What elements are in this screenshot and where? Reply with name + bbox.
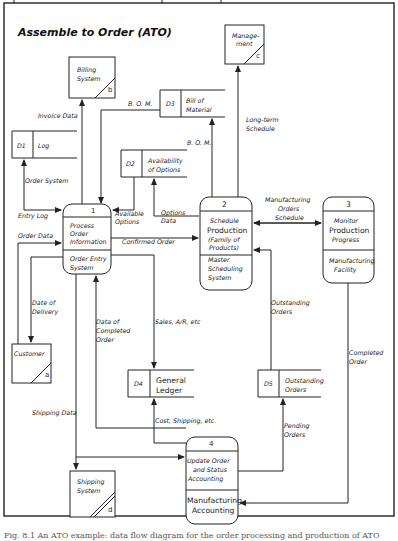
entity-name-line: Shipping [77,478,104,486]
flow-label: Completed [349,349,384,357]
flow-sales-ar: Sales, A/R, etc [111,255,201,368]
external-entity-management: Manage- ment c [225,25,264,64]
data-store-d3-bill-of-material: D3 Bill of Material [160,90,225,117]
process-location-line: Manufacturing [329,257,375,265]
entity-name-line: Billing [77,66,96,74]
flow-label: Shipping Data [32,409,77,417]
process-location-line: Accounting [192,506,235,515]
store-name-line: Outstanding [285,377,324,385]
store-name-line: Ledger [156,386,183,395]
flow-label: Schedule [246,125,275,132]
flow-label: Data of [96,318,121,325]
entity-letter: b [108,86,113,94]
flow-label: Completed [96,327,131,335]
flow-date-of-delivery: Date of Delivery [31,257,63,342]
process-number: 4 [209,440,214,448]
process-4-update-order-and-status-accounting: 4 Update Order and Status Accounting Man… [186,437,242,524]
store-name-line: Availability [147,157,183,165]
process-number: 1 [91,207,95,215]
flow-completed-order: Completed Order [240,283,384,503]
diagram-title: Assemble to Order (ATO) [17,26,172,39]
process-name-line: Schedule [210,217,239,224]
flow-entry-log: Entry Log [18,210,61,220]
entity-name-line: Manage- [232,32,260,40]
flow-order-system: Order System [24,160,69,210]
process-1-process-order-information: 1 Process Order Information Order Entry … [63,204,111,274]
flow-label: Options [115,218,140,226]
flow-label: Long-term [246,116,279,124]
flow-label: Order [349,358,367,365]
flow-label: Order [96,336,114,343]
flow-outstanding-orders: Outstanding Orders [254,250,310,370]
process-name-line: Process [70,222,95,229]
flow-label: Cost, Shipping, etc. [155,417,216,425]
flow-data-of-completed-order: Data of Completed Order [96,276,186,428]
flow-confirmed-order: Confirmed Order [111,238,198,245]
flow-label: Sales, A/R, etc [155,318,201,325]
process-name-line: Progress [332,236,360,244]
data-store-d2-availability-of-options: D2 Availability of Options [121,150,187,177]
data-flow-diagram: Assemble to Order (ATO) Billing System b… [0,0,398,541]
flow-order-data: Order Data [18,232,61,344]
entity-name-line: System [77,487,100,495]
process-location-line: Order Entry [70,255,107,263]
flow-available-options: Available Options [113,177,144,226]
flow-label: Data [161,217,176,224]
entity-letter: a [45,371,49,379]
process-location-line: Master [208,256,230,263]
flow-bom-to-process-1: B. O. M. [101,100,160,203]
flow-label: Schedule [275,214,304,221]
process-name-line: Accounting [187,475,223,483]
external-entity-shipping-system: Shipping System d [70,471,115,517]
figure-caption: Fig. 8.1 An ATO example: data flow diagr… [4,531,398,541]
store-label: D2 [126,160,135,167]
process-location-line: Manufacturing [187,496,242,505]
flow-label: Orders [284,431,306,438]
entity-name-line: Customer [14,350,45,357]
process-3-monitor-production-progress: 3 Monitor Production Progress Manufactur… [323,197,375,283]
process-name-line: Information [70,238,107,245]
process-number: 2 [222,200,227,209]
flow-options-data: Options Data [154,179,199,224]
process-2-schedule-production: 2 Schedule Production (Family of Product… [200,197,252,290]
flow-label: Order Data [18,232,53,239]
flow-label: Manufacturing [265,196,311,204]
store-name-line: of Options [148,166,181,174]
external-entity-billing-system: Billing System b [69,57,115,98]
store-name-line: Material [186,106,212,113]
flow-long-term-schedule: Long-term Schedule [238,66,279,197]
flow-label: Orders [271,308,293,315]
process-location-line: Facility [334,266,357,274]
store-name-line: Bill of [186,97,205,104]
data-store-d1-log: D1 Log [12,131,77,158]
process-name-line: (Family of [208,236,241,244]
process-location-line: System [70,264,93,272]
process-location-line: Scheduling [208,265,243,273]
process-number: 3 [346,200,351,209]
flow-label: Confirmed Order [122,238,175,245]
flow-pending-orders: Pending Orders [238,399,309,471]
flow-label: Available [114,210,144,217]
entity-letter: c [256,52,260,60]
store-label: D1 [17,142,26,149]
data-store-d5-outstanding-orders: D5 Outstanding Orders [258,370,324,397]
flow-label: Options [161,209,186,217]
flow-invoice-data: Invoice Data [38,100,82,204]
flow-label: Entry Log [18,212,48,220]
entity-name-line: ment [236,40,253,47]
flow-manufacturing-orders-schedule: Manufacturing Orders Schedule [254,196,321,223]
store-name-line: Log [38,142,49,150]
flow-label: Outstanding [271,299,310,307]
data-store-d4-general-ledger: D4 General Ledger [128,370,194,397]
store-label: D4 [134,380,143,387]
flow-label: Pending [284,422,309,430]
store-label: D5 [264,380,273,387]
flow-label: B. O. M. [128,100,152,107]
flow-label: Date of [32,299,57,306]
external-entity-customer: Customer a [12,344,51,383]
flow-bom-to-d3: B. O. M. [187,119,212,197]
flow-label: Orders [278,205,300,212]
process-name-line: Products) [209,244,239,251]
store-name-line: General [156,376,186,385]
flow-label: Order System [25,177,69,185]
